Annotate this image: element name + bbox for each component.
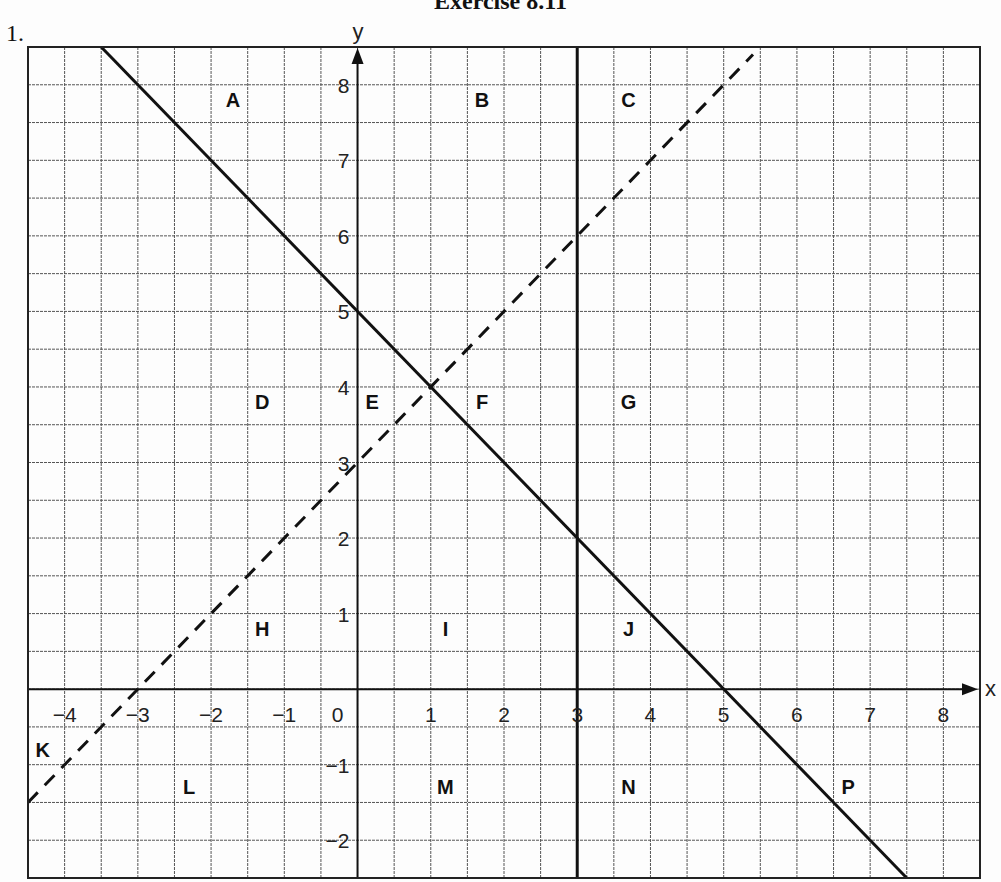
region-label-p: P <box>842 776 855 798</box>
y-tick-label: 4 <box>338 376 350 399</box>
series-line <box>28 55 753 803</box>
region-label-m: M <box>437 776 454 798</box>
y-tick-label: 8 <box>338 74 350 97</box>
y-tick-label: 7 <box>338 149 350 172</box>
y-tick-label: 3 <box>338 452 350 475</box>
region-label-c: C <box>621 89 635 111</box>
y-axis-label: y <box>353 19 364 44</box>
x-tick-label: −1 <box>272 703 296 726</box>
y-tick-label: 2 <box>338 527 350 550</box>
y-tick-label: 5 <box>338 300 350 323</box>
region-labels: ABCDEFGHIJKLMNP <box>35 89 854 798</box>
y-tick-label: 6 <box>338 225 350 248</box>
axes: xy <box>28 19 996 878</box>
x-axis-label: x <box>985 676 996 701</box>
x-tick-label: 8 <box>938 703 950 726</box>
y-tick-label: −1 <box>326 754 350 777</box>
x-tick-label: 2 <box>498 703 510 726</box>
region-label-g: G <box>621 391 637 413</box>
x-tick-label: 1 <box>425 703 437 726</box>
region-label-f: F <box>476 391 488 413</box>
y-tick-label: −2 <box>326 829 350 852</box>
region-label-h: H <box>255 618 269 640</box>
x-tick-label: 7 <box>864 703 876 726</box>
region-label-b: B <box>475 89 489 111</box>
region-label-i: I <box>443 618 449 640</box>
x-tick-label: 5 <box>718 703 730 726</box>
coordinate-graph: xy −4−3−2−1012345678−2−112345678 ABCDEFG… <box>0 0 1001 882</box>
tick-labels: −4−3−2−1012345678−2−112345678 <box>53 74 950 852</box>
region-label-e: E <box>366 391 379 413</box>
x-tick-label: −4 <box>53 703 77 726</box>
x-tick-label: 0 <box>332 703 344 726</box>
region-label-n: N <box>621 776 635 798</box>
region-label-j: J <box>623 618 634 640</box>
x-axis-arrow-icon <box>962 683 978 695</box>
x-tick-label: 6 <box>791 703 803 726</box>
region-label-a: A <box>226 89 240 111</box>
x-tick-label: −2 <box>199 703 223 726</box>
x-tick-label: 3 <box>571 703 583 726</box>
region-label-d: D <box>255 391 269 413</box>
region-label-l: L <box>183 776 195 798</box>
x-tick-label: 4 <box>645 703 657 726</box>
x-tick-label: −3 <box>126 703 150 726</box>
y-axis-arrow-icon <box>352 48 364 64</box>
y-tick-label: 1 <box>338 603 350 626</box>
region-label-k: K <box>35 739 50 761</box>
